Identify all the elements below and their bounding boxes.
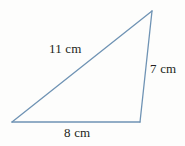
triangle-side-hypotenuse [12,11,152,122]
side-label-base: 8 cm [64,126,90,139]
side-label-right-side: 7 cm [150,62,176,75]
side-label-hypotenuse: 11 cm [49,42,82,55]
triangle-figure: 11 cm 7 cm 8 cm [0,0,185,146]
